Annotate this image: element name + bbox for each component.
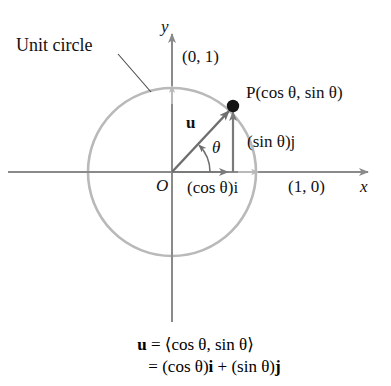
- caption-line-1: u = ⟨cos θ, sin θ⟩: [137, 335, 254, 354]
- unit-circle-label: Unit circle: [16, 36, 92, 54]
- sin-component-label: (sin θ)j: [247, 133, 295, 150]
- caption-equals-1: =: [147, 335, 165, 354]
- caption-j-symbol: j: [275, 357, 281, 376]
- vector-u-arrow: [172, 111, 229, 172]
- cos-component-label: (cos θ)i: [187, 179, 238, 196]
- coordinate-label-right: (1, 0): [288, 178, 325, 195]
- caption-equals-2: =: [148, 357, 162, 376]
- unit-circle-figure: Unit circle y x (0, 1) (1, 0) P(cos θ, s…: [0, 0, 391, 386]
- coordinate-label-top: (0, 1): [182, 48, 219, 65]
- theta-arc: [199, 145, 210, 172]
- caption-component-form: ⟨cos θ, sin θ⟩: [165, 335, 254, 354]
- origin-label: O: [156, 177, 168, 194]
- unit-circle-leader-line: [118, 54, 151, 92]
- caption-plus: +: [213, 357, 231, 376]
- caption-u-symbol: u: [137, 335, 146, 354]
- caption-line-2: = (cos θ)i + (sin θ)j: [0, 356, 391, 378]
- caption-sin-term: (sin θ): [231, 357, 275, 376]
- point-p-dot: [227, 100, 239, 112]
- point-p-label: P(cos θ, sin θ): [246, 84, 343, 101]
- theta-label: θ: [212, 139, 220, 156]
- y-axis-label: y: [161, 18, 169, 35]
- vector-u-label: u: [186, 114, 195, 131]
- x-axis-label: x: [360, 178, 368, 195]
- figure-caption: u = ⟨cos θ, sin θ⟩ = (cos θ)i + (sin θ)j: [0, 334, 391, 378]
- caption-cos-term: (cos θ): [162, 357, 208, 376]
